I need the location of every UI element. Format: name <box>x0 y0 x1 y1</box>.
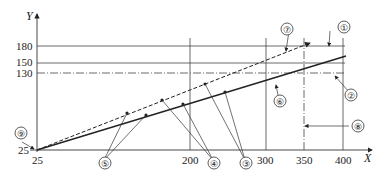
svg-text:④: ④ <box>210 159 218 169</box>
callout-5: ⑤ <box>99 157 111 169</box>
vertical-lines <box>190 38 343 150</box>
y-tick-25: 25 <box>18 144 30 156</box>
svg-text:③: ③ <box>242 159 250 169</box>
callout-4: ④ <box>208 157 220 169</box>
svg-text:②: ② <box>347 91 355 101</box>
x-tick-200: 200 <box>182 154 199 166</box>
svg-text:⑤: ⑤ <box>101 159 109 169</box>
x-tick-350: 350 <box>296 154 313 166</box>
svg-text:①: ① <box>340 23 348 33</box>
x-tick-labels: 25 200 300 350 400 <box>32 154 352 166</box>
engineering-diagram: Y X 180 150 130 25 25 200 300 350 400 <box>0 0 385 179</box>
svg-text:⑧: ⑧ <box>354 122 362 132</box>
callout-8: ⑧ <box>352 120 364 132</box>
callout-7: ⑦ <box>281 23 293 35</box>
callout-1: ① <box>338 21 350 33</box>
y-axis-label: Y <box>26 9 34 23</box>
callouts: ① ② ③ ④ ⑤ ⑥ ⑦ ⑧ <box>15 21 364 169</box>
y-tick-180: 180 <box>16 40 33 52</box>
x-tick-400: 400 <box>335 154 352 166</box>
callout-6: ⑥ <box>274 95 286 107</box>
y-tick-130: 130 <box>16 67 33 79</box>
svg-text:⑥: ⑥ <box>276 97 284 107</box>
callout-3: ③ <box>240 157 252 169</box>
dashed-line <box>37 43 310 150</box>
x-tick-300: 300 <box>257 154 274 166</box>
callout-9: ⑨ <box>15 127 27 139</box>
x-axis-label: X <box>363 151 372 165</box>
x-tick-25: 25 <box>32 154 44 166</box>
svg-text:⑨: ⑨ <box>17 129 25 139</box>
horizontal-lines <box>37 46 345 73</box>
solid-line <box>37 56 346 150</box>
data-points <box>125 82 226 116</box>
leader-lines <box>22 31 350 160</box>
callout-2: ② <box>345 89 357 101</box>
axes: Y X <box>26 9 372 165</box>
svg-text:⑦: ⑦ <box>283 25 291 35</box>
